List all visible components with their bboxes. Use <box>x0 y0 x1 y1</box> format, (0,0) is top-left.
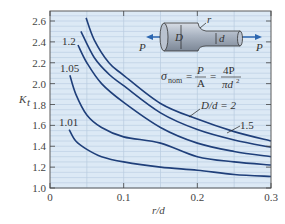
y-axis-label-sub: t <box>27 96 31 108</box>
y-tick-label: 2.6 <box>32 15 46 27</box>
formula-den1: A <box>197 77 205 89</box>
shaft-end-right <box>238 31 243 46</box>
y-tick-label: 2.0 <box>32 78 46 90</box>
curve-label-D-d-2: D/d = 2 <box>200 99 236 111</box>
formula-sub: nom <box>168 76 183 85</box>
label-D: D <box>174 31 183 43</box>
formula-num1: P <box>196 64 204 76</box>
y-axis-label: K <box>18 93 27 105</box>
curve-label-1-01: 1.01 <box>59 116 78 128</box>
stress-concentration-chart: 1.01.21.41.61.82.02.22.42.600.10.20.3 1.… <box>0 0 285 224</box>
label-P-right: P <box>255 41 263 53</box>
y-tick-label: 1.2 <box>32 161 46 173</box>
x-tick-label: 0.2 <box>190 191 204 203</box>
x-tick-label: 0 <box>47 191 53 203</box>
curve-label-1-2: 1.2 <box>62 35 76 47</box>
x-tick-label: 0.3 <box>264 191 278 203</box>
y-tick-label: 2.4 <box>32 36 46 48</box>
x-axis-label: r/d <box>152 204 165 216</box>
y-tick-label: 1.4 <box>32 140 46 152</box>
label-r: r <box>207 13 212 25</box>
ratio-text: D/d = 2 <box>200 99 236 111</box>
y-tick-label: 1.0 <box>32 182 46 194</box>
shaft-end-left <box>160 23 168 51</box>
y-tick-label: 2.2 <box>32 57 46 69</box>
formula-eq1: = <box>186 70 192 82</box>
formula-num2: 4P <box>223 64 235 76</box>
formula-eq2: = <box>210 70 216 82</box>
formula-den2-sup: 2 <box>236 77 240 85</box>
formula-den2: πd <box>222 78 234 90</box>
label-P-left: P <box>138 41 146 53</box>
y-tick-label: 1.6 <box>32 119 46 131</box>
label-d: d <box>219 32 225 44</box>
curve-label-1-05: 1.05 <box>60 62 80 74</box>
x-tick-label: 0.1 <box>117 191 131 203</box>
curve-label-1-5: 1.5 <box>240 119 254 131</box>
y-tick-label: 1.8 <box>32 99 46 111</box>
